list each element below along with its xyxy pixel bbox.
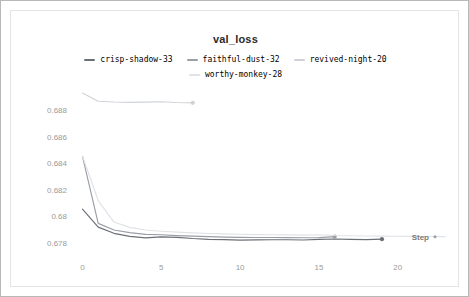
x-axis-name: Step — [412, 233, 429, 242]
line-chart-svg[interactable]: 0.6880.6860.6840.6820.680.678 05101520 S… — [11, 11, 460, 288]
x-tick-label: 20 — [393, 263, 402, 272]
y-tick-label: 0.68 — [51, 212, 67, 221]
x-axis-name-group: Step — [412, 233, 437, 242]
screenshot-root: val_loss crisp-shadow-33 faithful-dust-3… — [0, 0, 469, 297]
series-line-2 — [82, 93, 192, 103]
x-axis-name-marker-icon — [434, 235, 437, 238]
y-tick-label: 0.678 — [47, 239, 68, 248]
series-end-marker-0 — [380, 237, 384, 241]
x-tick-label: 5 — [159, 263, 164, 272]
series-line-1 — [82, 156, 334, 237]
x-tick-label: 0 — [80, 263, 85, 272]
y-tick-label: 0.684 — [47, 159, 68, 168]
chart-panel-card: val_loss crisp-shadow-33 faithful-dust-3… — [10, 10, 459, 287]
y-axis-tick-labels: 0.6880.6860.6840.6820.680.678 — [47, 106, 68, 248]
x-tick-label: 15 — [314, 263, 323, 272]
x-tick-label: 10 — [236, 263, 245, 272]
x-axis-tick-labels: 05101520 — [80, 263, 402, 272]
series-end-marker-2 — [191, 101, 195, 105]
series-group — [82, 93, 445, 241]
series-line-3 — [82, 156, 445, 237]
y-tick-label: 0.682 — [47, 186, 68, 195]
y-tick-label: 0.686 — [47, 133, 68, 142]
y-tick-label: 0.688 — [47, 106, 68, 115]
plot-area[interactable]: 0.6880.6860.6840.6820.680.678 05101520 S… — [11, 11, 460, 288]
